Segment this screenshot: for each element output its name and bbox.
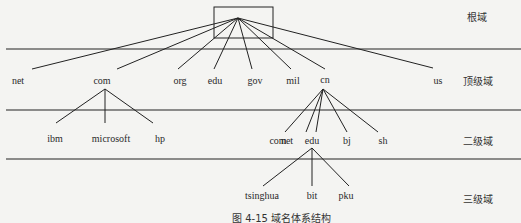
level-label-third: 三级域 [463,194,493,206]
node-mil: mil [286,75,299,87]
node-tsinghua: tsinghua [245,190,279,202]
level-label-second: 二级域 [463,136,493,148]
node-com: com [93,75,110,87]
node-cn: cn [320,74,329,86]
node-edu: edu [208,75,222,87]
node-cn-net-label: net [281,135,293,147]
node-org: org [173,75,186,87]
node-cn-sh: sh [379,135,388,147]
node-ibm: ibm [47,133,63,145]
node-microsoft: microsoft [92,133,130,145]
node-gov: gov [248,75,263,87]
root-edges [32,18,433,69]
node-bit: bit [307,190,318,202]
node-us: us [434,75,443,87]
node-hp: hp [155,133,165,145]
node-cn-bj: bj [343,135,351,147]
dns-hierarchy-diagram: net com org edu gov mil cn us ibm micros… [0,0,521,223]
level-label-root: 根域 [467,12,487,24]
node-net: net [12,75,24,87]
node-pku: pku [339,190,354,202]
node-cn-edu: edu [305,135,319,147]
cn-edu-edges [263,148,349,186]
figure-caption: 图 4-15 域名体系结构 [232,213,331,223]
com-edges [56,89,153,123]
level-label-tld: 顶级域 [463,76,493,88]
